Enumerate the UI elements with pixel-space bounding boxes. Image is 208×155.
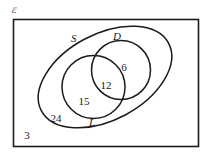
venn-diagram: ℰ S D L 6 12 15 24 3 [0,0,208,155]
region-count-outside: 3 [24,129,30,141]
region-count-s-only: 24 [51,112,63,124]
universal-set-symbol: ℰ [11,6,17,15]
region-count-d-only: 6 [121,61,127,73]
region-count-l-only: 15 [79,95,91,107]
set-label-s: S [71,32,77,44]
region-count-l-and-d: 12 [101,79,112,91]
set-label-l: L [88,116,95,128]
set-label-d: D [112,30,121,42]
